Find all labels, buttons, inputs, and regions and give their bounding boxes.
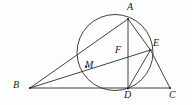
vertex-label-d: D <box>124 90 131 100</box>
geometry-canvas <box>0 0 192 105</box>
geometry-figure: ABCDEFM <box>0 0 192 105</box>
vertex-label-f: F <box>115 45 121 55</box>
vertex-dot-e <box>149 49 151 51</box>
vertex-label-b: B <box>13 80 19 90</box>
vertex-dot-a <box>127 18 129 20</box>
vertex-label-a: A <box>127 2 133 12</box>
segment-b-a <box>30 19 128 88</box>
vertex-label-m: M <box>85 60 93 70</box>
segment-e-c <box>151 50 171 88</box>
vertex-dot-group <box>29 18 171 90</box>
vertex-label-c: C <box>169 90 176 100</box>
vertex-label-e: E <box>153 38 159 48</box>
segment-group <box>30 19 170 89</box>
vertex-dot-b <box>29 87 31 89</box>
